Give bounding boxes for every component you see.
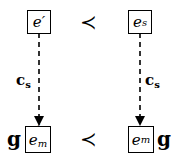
node-label: e xyxy=(132,131,141,149)
node-subscript: s xyxy=(142,17,147,28)
node-label: e xyxy=(33,13,42,31)
label-subscript: s xyxy=(154,79,160,90)
prime-mark: ′ xyxy=(42,13,45,31)
arrowhead-right-icon xyxy=(135,116,145,126)
precedes-bottom: ≺ xyxy=(80,129,97,149)
node-bottom-right: em xyxy=(128,126,154,153)
node-top-left: e′ xyxy=(27,10,51,34)
edge-label-right: cs xyxy=(145,73,160,90)
node-label: e xyxy=(29,131,38,149)
label-base: c xyxy=(16,71,25,89)
label-subscript: s xyxy=(25,79,31,90)
prime-mark: ′ xyxy=(38,122,41,135)
node-top-right: es xyxy=(128,10,152,34)
node-label: e xyxy=(133,13,142,31)
node-bottom-left: e′m xyxy=(25,126,51,153)
label-base: c xyxy=(145,71,154,89)
node-subscript: m xyxy=(141,134,150,145)
g-left: g xyxy=(7,129,21,149)
edge-label-left: cs xyxy=(16,73,31,90)
node-subscript: m xyxy=(38,138,47,149)
precedes-top: ≺ xyxy=(80,12,97,32)
g-right: g xyxy=(157,129,171,149)
